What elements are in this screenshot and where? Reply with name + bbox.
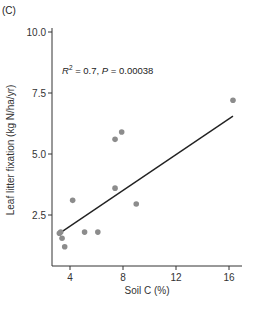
x-tick-label: 4 bbox=[67, 272, 73, 283]
data-point bbox=[112, 185, 118, 191]
x-tick-label: 16 bbox=[223, 272, 235, 283]
data-point bbox=[59, 235, 65, 241]
y-tick-label: 5.0 bbox=[32, 149, 46, 160]
regression-line-layer bbox=[59, 116, 233, 233]
data-point bbox=[133, 201, 139, 207]
data-points bbox=[57, 98, 236, 250]
r2-value: = 0.7, bbox=[73, 65, 102, 76]
data-point bbox=[58, 229, 64, 235]
scatter-chart: (C) 2.55.07.510.0 481216 Leaf litter fix… bbox=[0, 0, 256, 314]
y-tick-label: 10.0 bbox=[27, 27, 47, 38]
data-point bbox=[112, 137, 118, 143]
panel-label: (C) bbox=[2, 5, 16, 16]
data-point bbox=[62, 244, 68, 250]
data-point bbox=[70, 198, 76, 204]
axes bbox=[52, 28, 242, 266]
y-ticks: 2.55.07.510.0 bbox=[27, 27, 52, 221]
y-tick-label: 7.5 bbox=[32, 88, 46, 99]
x-tick-label: 8 bbox=[120, 272, 126, 283]
p-value: = 0.00038 bbox=[108, 65, 153, 76]
regression-annotation: R2 = 0.7, P = 0.00038 bbox=[62, 64, 153, 76]
y-axis-label: Leaf litter fixation (kg N/ha/yr) bbox=[5, 85, 16, 216]
data-point bbox=[82, 229, 88, 235]
x-tick-label: 12 bbox=[170, 272, 182, 283]
x-ticks: 481216 bbox=[67, 266, 235, 283]
y-tick-label: 2.5 bbox=[32, 210, 46, 221]
data-point bbox=[230, 98, 236, 104]
regression-line bbox=[59, 116, 233, 233]
data-point bbox=[119, 129, 125, 135]
data-point bbox=[95, 229, 101, 235]
x-axis-label: Soil C (%) bbox=[124, 285, 169, 296]
